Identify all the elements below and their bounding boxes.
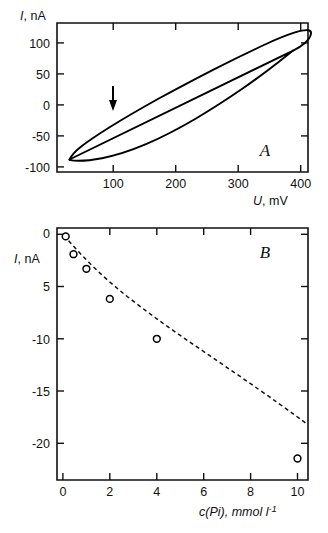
panel-a-curve-forward-sweep [70, 30, 312, 159]
panel-a-y-tick-label-0: 0 [43, 99, 50, 113]
panel-b-x-tick-label-6: 6 [200, 485, 207, 499]
panel-b-plot-frame [57, 228, 308, 480]
panel-b-y-ticks [57, 234, 308, 443]
panel-b-y-axis-title-unit: , nA [17, 252, 40, 266]
panel-b: 0 5 -10 -15 -20 0 2 4 6 8 [14, 227, 308, 519]
panel-b-x-ticks [63, 228, 298, 480]
panel-a-x-axis-title-unit: , mV [262, 194, 288, 208]
panel-b-label: B [260, 243, 271, 262]
panel-a-y-tick-label-neg50: -50 [32, 130, 50, 144]
panel-a: 100 50 0 -50 -100 100 200 [20, 9, 311, 208]
panel-a-y-axis-title-unit: , nA [23, 9, 46, 23]
panel-a-x-axis-title: U, mV [253, 194, 288, 208]
panel-b-x-tick-label-0: 0 [59, 485, 66, 499]
panel-a-label: A [259, 141, 271, 160]
panel-a-y-axis-title: I, nA [20, 9, 46, 23]
panel-a-x-tick-label-200: 200 [165, 177, 186, 191]
panel-a-y-tick-label-neg100: -100 [25, 161, 50, 175]
data-point-marker [153, 335, 160, 342]
panel-b-fit-curve [64, 235, 306, 423]
panel-a-y-tick-label-50: 50 [36, 68, 50, 82]
panel-b-x-axis-title-unit: , mmol l [225, 505, 270, 519]
data-point-marker [83, 265, 90, 272]
panel-b-y-tick-label-neg15: -15 [32, 385, 50, 399]
panel-b-y-tick-label-neg20: -20 [32, 437, 50, 451]
panel-b-y-axis-title: I, nA [14, 252, 40, 266]
panel-a-x-tick-label-100: 100 [103, 177, 124, 191]
panel-b-y-tick-label-neg10: -10 [32, 333, 50, 347]
panel-a-y-tick-label-100: 100 [29, 37, 50, 51]
panel-b-data-markers [62, 233, 301, 462]
scientific-figure: 100 50 0 -50 -100 100 200 [0, 0, 328, 533]
panel-a-y-ticks [57, 43, 64, 167]
panel-a-x-tick-label-400: 400 [290, 177, 311, 191]
data-point-marker [62, 233, 69, 240]
panel-b-x-axis-title: c(Pi), mmol l-1 [199, 503, 277, 519]
panel-b-x-tick-label-10: 10 [291, 485, 305, 499]
panel-b-y-tick-label-neg5: 5 [43, 280, 50, 294]
data-point-marker [70, 251, 77, 258]
panel-b-x-axis-title-exponent: -1 [268, 503, 276, 514]
panel-a-x-ticks [113, 23, 308, 172]
panel-b-x-tick-label-4: 4 [153, 485, 160, 499]
data-point-marker [294, 455, 301, 462]
data-point-marker [106, 296, 113, 303]
panel-b-x-axis-title-analyte: c(Pi) [199, 505, 225, 519]
panel-b-x-tick-label-8: 8 [247, 485, 254, 499]
panel-a-x-tick-label-300: 300 [228, 177, 249, 191]
scan-direction-arrow [109, 86, 117, 111]
figure-canvas: 100 50 0 -50 -100 100 200 [0, 0, 328, 533]
panel-a-plot-frame [57, 23, 308, 172]
panel-b-y-tick-label-0: 0 [43, 227, 50, 241]
panel-b-x-tick-label-2: 2 [106, 485, 113, 499]
